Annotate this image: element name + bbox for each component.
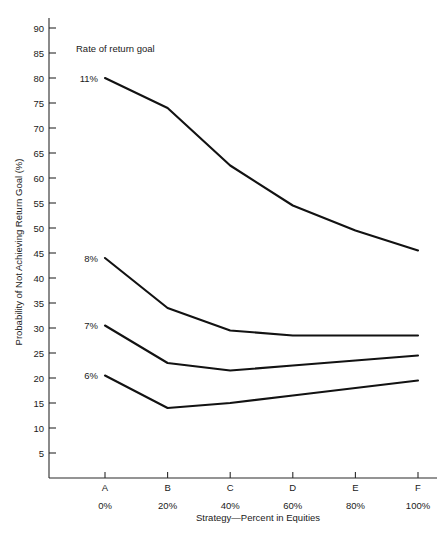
line-chart: 51015202530354045505560657075808590 A0%B… <box>0 0 441 534</box>
y-tick-label: 20 <box>33 373 44 384</box>
y-tick-label: 5 <box>39 448 44 459</box>
x-tick-label: F <box>415 482 421 493</box>
y-tick-label: 30 <box>33 323 44 334</box>
y-tick-label: 90 <box>33 23 44 34</box>
series-label-8pct: 8% <box>84 253 98 264</box>
y-tick-label: 75 <box>33 98 44 109</box>
x-tick-sublabel: 40% <box>221 500 241 511</box>
x-tick-label: A <box>102 482 109 493</box>
y-tick-label: 40 <box>33 273 44 284</box>
series-lines <box>105 78 418 408</box>
y-tick-label: 15 <box>33 398 44 409</box>
x-tick-label: D <box>289 482 296 493</box>
x-tick-sublabel: 60% <box>283 500 303 511</box>
y-axis-title: Probability of Not Achieving Return Goal… <box>13 159 24 346</box>
x-axis: A0%B20%C40%D60%E80%F100% <box>49 472 437 511</box>
x-tick-sublabel: 80% <box>346 500 366 511</box>
series-label-6pct: 6% <box>84 370 98 381</box>
chart-container: 51015202530354045505560657075808590 A0%B… <box>0 0 441 534</box>
y-tick-label: 60 <box>33 173 44 184</box>
series-label-11pct: 11% <box>80 73 99 84</box>
x-tick-label: E <box>352 482 358 493</box>
series-line-8pct <box>105 258 418 336</box>
x-tick-sublabel: 100% <box>406 500 431 511</box>
series-line-6pct <box>105 376 418 409</box>
series-labels: 11%8%7%6% <box>80 73 99 382</box>
y-tick-label: 65 <box>33 148 44 159</box>
chart-annotation: Rate of return goal <box>76 43 155 54</box>
series-line-11pct <box>105 78 418 251</box>
y-tick-label: 10 <box>33 423 44 434</box>
y-tick-label: 85 <box>33 48 44 59</box>
y-tick-label: 45 <box>33 248 44 259</box>
y-tick-label: 70 <box>33 123 44 134</box>
y-tick-label: 50 <box>33 223 44 234</box>
x-tick-label: C <box>227 482 234 493</box>
y-tick-label: 25 <box>33 348 44 359</box>
x-tick-label: B <box>164 482 170 493</box>
y-tick-label: 80 <box>33 73 44 84</box>
y-tick-label: 35 <box>33 298 44 309</box>
series-label-7pct: 7% <box>84 320 98 331</box>
x-tick-sublabel: 20% <box>158 500 178 511</box>
y-tick-label: 55 <box>33 198 44 209</box>
x-tick-sublabel: 0% <box>98 500 112 511</box>
y-axis: 51015202530354045505560657075808590 <box>33 18 56 478</box>
x-axis-title: Strategy—Percent in Equities <box>196 512 320 523</box>
